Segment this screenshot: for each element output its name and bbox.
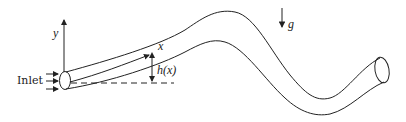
pipe-upper-wall bbox=[66, 11, 380, 99]
y-axis-label: y bbox=[52, 26, 59, 40]
inlet-group: Inlet bbox=[17, 74, 58, 89]
gravity: g bbox=[279, 8, 294, 31]
inlet-opening-ellipse bbox=[60, 72, 71, 90]
gravity-label: g bbox=[288, 17, 294, 31]
pipe-flow-diagram: y Inlet x h(x) g bbox=[0, 0, 406, 122]
pipe-body bbox=[60, 11, 392, 115]
y-axis: y bbox=[52, 20, 64, 72]
height-dimension: h(x) bbox=[152, 57, 176, 81]
inlet-label: Inlet bbox=[17, 74, 43, 87]
pipe-lower-wall bbox=[66, 41, 384, 115]
x-coordinate-label: x bbox=[157, 39, 164, 53]
height-label: h(x) bbox=[157, 63, 176, 77]
